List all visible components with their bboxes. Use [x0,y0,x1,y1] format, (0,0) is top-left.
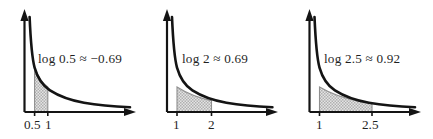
panel-3-plot [288,0,433,139]
chart-panel-log-2-5: log 2.5 ≈ 0.92 1 2.5 [288,0,432,139]
tick-label-1: 2 [208,118,215,131]
y-axis-arrowhead [20,9,28,21]
chart-panel-log-2: log 2 ≈ 0.69 1 2 [144,0,288,139]
x-axis-arrowhead [409,108,421,116]
panel-1-plot [0,0,144,139]
tick-label-1: 2.5 [362,118,378,131]
panel-annotation: log 2.5 ≈ 0.92 [324,52,400,65]
panel-annotation: log 2 ≈ 0.69 [182,52,248,65]
panel-2-plot [144,0,288,139]
x-axis-arrowhead [266,108,278,116]
tick-label-0: 1 [316,118,323,131]
chart-panel-log-0-5: log 0.5 ≈ −0.69 0.5 1 [0,0,144,139]
y-axis-arrowhead [305,9,313,21]
x-axis-arrowhead [124,108,136,116]
tick-label-0: 0.5 [24,118,40,131]
logarithm-area-figure: log 0.5 ≈ −0.69 0.5 1 log [0,0,433,139]
tick-label-0: 1 [173,118,180,131]
panel-annotation: log 0.5 ≈ −0.69 [38,52,122,65]
tick-label-1: 1 [45,118,52,131]
y-axis-arrowhead [163,9,171,21]
shaded-area [320,87,373,112]
